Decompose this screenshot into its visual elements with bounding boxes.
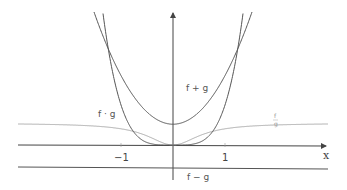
tick-label-neg1: −1 — [114, 152, 129, 163]
label-f-minus-g: f − g — [187, 172, 209, 182]
x-axis-label: x — [323, 149, 330, 162]
label-f-div-g-den: g — [274, 120, 278, 128]
label-f-div-g-num: f — [274, 112, 277, 119]
function-graph: f + g f · g f g f − g −1 1 x — [0, 0, 347, 190]
label-f-plus-g: f + g — [186, 83, 208, 93]
tick-label-1: 1 — [222, 152, 228, 163]
label-f-times-g: f · g — [98, 109, 115, 119]
